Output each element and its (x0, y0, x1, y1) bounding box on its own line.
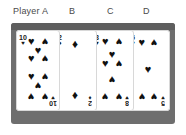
heart-icon: ♥ (102, 58, 109, 69)
heart-icon: ♥ (28, 53, 35, 64)
heart-icon: ♥ (35, 44, 42, 55)
heart-icon: ♥ (109, 49, 116, 60)
player-labels-row: Player A B C D (0, 0, 186, 24)
heart-icon: ♥ (115, 35, 122, 46)
heart-icon: ♥ (109, 74, 116, 85)
heart-icon: ♥ (28, 91, 35, 102)
heart-icon: ♥ (138, 91, 145, 102)
player-label-b: B (69, 6, 75, 17)
player-label-d: D (143, 6, 150, 17)
diamond-icon: ♦ (72, 38, 78, 50)
heart-icon: ♥ (41, 71, 48, 82)
heart-icon: ♥ (115, 91, 122, 102)
playing-card-a[interactable]: 10 ♥ 10 ♥ ♥ ♥ ♥ ♥ ♥ ♥ ♥ ♥ ♥ ♥ (16, 30, 60, 111)
heart-icon: ♥ (102, 91, 109, 102)
card-d-pips: ♥ ♥ ♥ ♥ ♥ (136, 35, 160, 106)
heart-icon: ♥ (41, 91, 48, 102)
heart-icon: ♥ (115, 58, 122, 69)
diamond-icon: ♦ (72, 90, 78, 102)
card-b-pips: ♦ ♦ (63, 35, 87, 106)
heart-icon: ♥ (102, 35, 109, 46)
player-label-a: Player A (13, 6, 48, 17)
heart-icon: ♥ (35, 80, 42, 91)
card-surface: 10 ♥ 10 ♥ ♥ ♥ ♥ ♥ ♥ ♥ ♥ ♥ ♥ ♥ (16, 30, 170, 111)
card-c-pips: ♥ ♥ ♥ ♥ ♥ ♥ ♥ ♥ (100, 35, 124, 106)
card-a-pips: ♥ ♥ ♥ ♥ ♥ ♥ ♥ ♥ ♥ ♥ (26, 35, 50, 106)
heart-icon: ♥ (41, 53, 48, 64)
heart-icon: ♥ (151, 37, 158, 48)
card-a-index-bottom: 10 ♥ (49, 95, 57, 107)
heart-icon: ♥ (138, 37, 145, 48)
card-table-frame: 10 ♥ 10 ♥ ♥ ♥ ♥ ♥ ♥ ♥ ♥ ♥ ♥ ♥ (11, 23, 175, 124)
player-label-c: C (107, 6, 114, 17)
heart-icon: ♥ (41, 35, 48, 46)
card-c-index-bottom: 8 ♥ (123, 95, 131, 107)
card-d-index-bottom: 5 ♥ (159, 95, 167, 107)
heart-icon: ♥ (28, 71, 35, 82)
heart-icon: ♥ (159, 95, 167, 101)
card-b-index-bottom: 2 ♦ (86, 95, 94, 107)
heart-icon: ♥ (123, 95, 131, 101)
heart-icon: ♥ (145, 64, 152, 75)
heart-icon: ♥ (151, 91, 158, 102)
frame-top-edge (11, 23, 175, 30)
heart-icon: ♥ (28, 35, 35, 46)
